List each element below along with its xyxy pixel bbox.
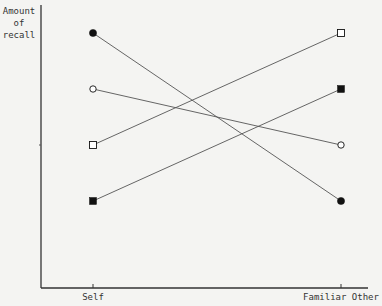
series-line xyxy=(93,89,341,145)
series-layer xyxy=(89,29,344,204)
series-filled-square xyxy=(90,86,345,205)
series-open-square xyxy=(90,30,345,149)
series-open-circle xyxy=(90,86,344,148)
open-square-marker xyxy=(338,30,345,37)
x-tick-label-self: Self xyxy=(82,292,104,302)
filled-square-marker xyxy=(90,198,97,205)
filled-square-marker xyxy=(338,86,345,93)
open-circle-marker xyxy=(90,86,96,92)
filled-circle-marker xyxy=(89,29,96,36)
chart-plot-area xyxy=(0,0,382,306)
series-line xyxy=(93,33,341,145)
x-tick-label-familiar-other: Familiar Other xyxy=(303,292,379,302)
open-circle-marker xyxy=(338,142,344,148)
filled-circle-marker xyxy=(337,197,344,204)
open-square-marker xyxy=(90,142,97,149)
series-line xyxy=(93,89,341,201)
